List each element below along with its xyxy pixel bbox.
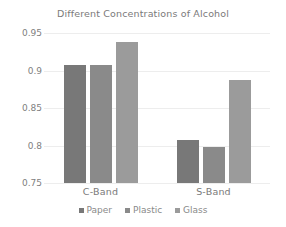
- chart-legend: PaperPlasticGlass: [0, 205, 286, 215]
- bar-glass-s-band: [229, 80, 251, 184]
- legend-swatch-icon: [79, 208, 84, 213]
- legend-swatch-icon: [175, 208, 180, 213]
- bar-plastic-c-band: [90, 65, 112, 184]
- y-tick-label: 0.8: [2, 141, 42, 151]
- chart-title: Different Concentrations of Alcohol: [0, 8, 286, 19]
- x-tick-label: C-Band: [83, 186, 118, 197]
- y-tick-label: 0.85: [2, 103, 42, 113]
- bar-paper-s-band: [177, 140, 199, 183]
- legend-item-paper[interactable]: Paper: [79, 205, 113, 215]
- legend-item-plastic[interactable]: Plastic: [125, 205, 162, 215]
- x-tick-label: S-Band: [196, 186, 231, 197]
- y-axis: 0.950.90.850.80.75: [0, 33, 42, 183]
- legend-swatch-icon: [125, 208, 130, 213]
- legend-label: Paper: [87, 205, 113, 215]
- gridline: [44, 33, 270, 34]
- gridline: [44, 183, 270, 184]
- plot-area: [44, 33, 270, 183]
- bar-glass-c-band: [116, 42, 138, 183]
- y-tick-label: 0.9: [2, 66, 42, 76]
- legend-label: Plastic: [133, 205, 162, 215]
- x-axis: C-BandS-Band: [44, 186, 270, 202]
- bar-chart: Different Concentrations of Alcohol 0.95…: [0, 0, 286, 227]
- y-tick-label: 0.95: [2, 28, 42, 38]
- bar-plastic-s-band: [203, 147, 225, 183]
- bar-paper-c-band: [64, 65, 86, 184]
- y-tick-label: 0.75: [2, 178, 42, 188]
- legend-label: Glass: [183, 205, 207, 215]
- legend-item-glass[interactable]: Glass: [175, 205, 207, 215]
